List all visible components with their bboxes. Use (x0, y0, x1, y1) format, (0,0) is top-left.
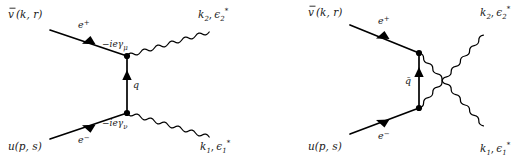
vertex-dot-top (124, 53, 130, 59)
left-diagram: v (k, r) e+ e− u(p, s) −ieγμ −ieγν q (0, 0, 264, 158)
label-incoming-positron-spinor: v (k, r) (8, 8, 42, 20)
label-incoming-positron-spinor: v (k, r) (308, 6, 342, 18)
vertex-dot-top (416, 50, 422, 56)
positron-arrow-icon (376, 31, 390, 39)
positron-arrow-icon (82, 36, 96, 44)
svg-text:e−: e− (78, 134, 90, 146)
label-outgoing-photon-top: k2, ϵ2* (198, 7, 229, 23)
label-positron-line: e+ (378, 15, 390, 27)
svg-text:k1, ϵ1*: k1, ϵ1* (480, 141, 511, 157)
svg-text:v: v (308, 6, 314, 18)
feynman-diagram-figure: v (k, r) e+ e− u(p, s) −ieγμ −ieγν q (0, 0, 528, 158)
svg-text:v: v (8, 8, 14, 20)
label-outgoing-photon-bottom: k1, ϵ1* (480, 141, 511, 157)
label-positron-line: e+ (78, 19, 90, 31)
label-incoming-electron-spinor: u(p, s) (308, 140, 342, 152)
label-incoming-electron-spinor: u(p, s) (8, 140, 42, 152)
outgoing-photon-top-line (127, 32, 209, 56)
vertex-dot-bottom (124, 110, 130, 116)
vertex-dot-bottom (416, 105, 422, 111)
electron-arrow-icon (82, 125, 96, 133)
svg-text:q̄: q̄ (405, 75, 411, 86)
propagator-arrow-icon (414, 67, 423, 77)
svg-text:e−: e− (378, 130, 390, 142)
right-diagram: v (k, r) e+ e− u(p, s) q̄ k2, ϵ2* k1 (264, 0, 528, 158)
outgoing-photon-k2-crossed-line (419, 35, 483, 108)
outgoing-photon-k1-crossed-line (419, 53, 483, 126)
label-outgoing-photon-top: k2, ϵ2* (480, 5, 511, 21)
svg-text:(k, r): (k, r) (16, 8, 42, 20)
label-outgoing-photon-bottom: k1, ϵ1* (200, 139, 231, 155)
svg-text:k2, ϵ2*: k2, ϵ2* (480, 5, 511, 21)
label-propagator-momentum: q̄ (405, 75, 411, 86)
svg-text:e+: e+ (378, 15, 390, 27)
label-propagator-momentum: q (133, 79, 139, 90)
incoming-positron-line (350, 25, 419, 53)
outgoing-photon-bottom-line (127, 113, 209, 137)
svg-text:(k, r): (k, r) (316, 6, 342, 18)
svg-text:k1, ϵ1*: k1, ϵ1* (200, 139, 231, 155)
svg-text:e+: e+ (78, 19, 90, 31)
label-electron-line: e− (378, 130, 390, 142)
propagator-arrow-icon (122, 70, 131, 80)
svg-text:k2, ϵ2*: k2, ϵ2* (198, 7, 229, 23)
svg-text:−ieγν: −ieγν (102, 118, 128, 131)
label-electron-line: e− (78, 134, 90, 146)
label-vertex-bottom: −ieγν (102, 118, 128, 131)
